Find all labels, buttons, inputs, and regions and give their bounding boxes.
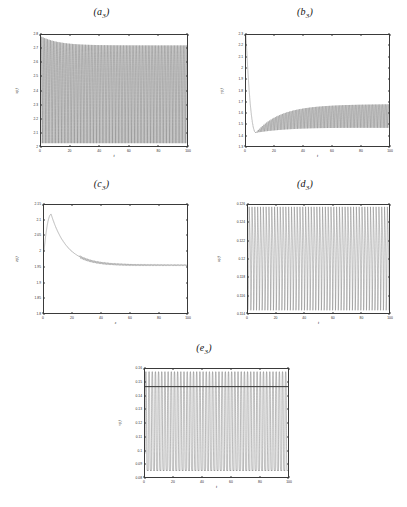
panel-c3-xtick-label: 60: [128, 316, 132, 320]
panel-b3-xtick-mark: [332, 145, 333, 147]
panel-b3-xtick-label: 60: [330, 149, 334, 153]
panel-e3-xtick-mark: [231, 476, 232, 478]
panel-d3-xtick-label: 40: [302, 316, 306, 320]
panel-b3-xtick-mark: [332, 34, 333, 36]
panel-d3-xtick-mark: [390, 312, 391, 314]
panel-c3-xtick-mark: [130, 312, 131, 314]
panel-e3-xtick-mark: [202, 476, 203, 478]
panel-d3-xtick-label: 0: [246, 316, 248, 320]
panel-a3-xtick-mark: [99, 145, 100, 147]
panel-c3-xtick-mark: [101, 204, 102, 206]
panel-b3-ytick-label: 1.8: [238, 89, 243, 93]
panel-a3-xtick-mark: [158, 34, 159, 36]
panel-c3-xtick-mark: [72, 312, 73, 314]
panel-a3-ytick-mark: [186, 76, 188, 77]
panel-e3-ytick-mark: [287, 381, 289, 382]
panel-a3-ytick-label: 2.7: [33, 46, 38, 50]
panel-e3-xtick-mark: [231, 368, 232, 370]
panel-b3-ytick-label: 1.4: [238, 134, 243, 138]
panel-a3-xtick-label: 60: [127, 149, 131, 153]
panel-a3-xtick-mark: [158, 145, 159, 147]
panel-c3-xtick-label: 100: [185, 316, 191, 320]
panel-e3-xtick-label: 60: [229, 480, 233, 484]
panel-b3-xtick-mark: [274, 34, 275, 36]
panel-b3-ytick-label: 1.5: [238, 122, 243, 126]
panel-d3-axes: [247, 204, 390, 314]
panel-a3-xtick-mark: [188, 145, 189, 147]
panel-d3: (d3) u(t) t 0.1140.1160.1180.120.1220.12…: [203, 178, 407, 340]
panel-c3-xtick-label: 40: [99, 316, 103, 320]
panel-d3-xtick-mark: [332, 312, 333, 314]
panel-b3-xtick-label: 20: [272, 149, 276, 153]
panel-e3-ytick-mark: [144, 450, 146, 451]
panel-b3-xlabel: t: [317, 153, 318, 158]
panel-a3-xtick-mark: [40, 34, 41, 36]
panel-b3-axes: [245, 34, 390, 147]
panel-b3-curve: [246, 35, 389, 146]
panel-e3-ytick-mark: [144, 464, 146, 465]
panel-a3-plot: x(t) t 22.12.22.32.42.52.62.72.802040608…: [40, 34, 188, 147]
panel-c3-ytick-label: 2: [39, 249, 41, 253]
panel-e3-xtick-mark: [289, 368, 290, 370]
panel-c3-ytick-mark: [43, 282, 45, 283]
panel-e3-xtick-mark: [144, 368, 145, 370]
panel-e3-ytick-mark: [287, 395, 289, 396]
panel-c3-plot: z(t) z 1.81.851.91.9522.052.12.150204060…: [43, 204, 188, 314]
panel-a3-axes: [40, 34, 188, 147]
panel-e3-xtick-label: 20: [171, 480, 175, 484]
panel-e3-xtick-mark: [173, 476, 174, 478]
panel-e3-ytick-mark: [144, 381, 146, 382]
panel-c3-ytick-label: 1.8: [36, 312, 41, 316]
panel-b3-ytick-label: 2: [241, 66, 243, 70]
panel-e3-xtick-label: 100: [286, 480, 292, 484]
panel-b3-ytick-mark: [245, 90, 247, 91]
panel-c3-ytick-mark: [43, 251, 45, 252]
panel-e3: (e3) v(t) t 0.080.090.10.110.120.130.140…: [102, 342, 306, 504]
panel-c3-ytick-label: 2.15: [35, 202, 41, 206]
panel-b3: (b3) y(t) t 1.31.41.51.61.71.81.922.12.2…: [203, 6, 407, 176]
panel-b3-ytick-mark: [245, 113, 247, 114]
panel-e3-ytick-mark: [144, 409, 146, 410]
panel-e3-xlabel: t: [216, 484, 217, 489]
panel-b3-ytick-mark: [245, 135, 247, 136]
panel-c3-ytick-label: 2.1: [36, 218, 41, 222]
panel-c3-curve: [44, 205, 187, 313]
panel-c3-ytick-mark: [186, 251, 188, 252]
panel-c3-ytick-mark: [186, 298, 188, 299]
panel-b3-ytick-mark: [388, 113, 390, 114]
panel-c3-xtick-mark: [159, 312, 160, 314]
panel-e3-ytick-mark: [144, 423, 146, 424]
panel-a3-ytick-mark: [186, 62, 188, 63]
panel-e3-ytick-mark: [287, 450, 289, 451]
panel-d3-ytick-label: 0.126: [237, 202, 245, 206]
panel-c3-xtick-mark: [43, 204, 44, 206]
panel-e3-ytick-label: 0.13: [136, 407, 142, 411]
panel-e3-ytick-mark: [144, 395, 146, 396]
panel-a3-xtick-mark: [188, 34, 189, 36]
panel-d3-ytick-mark: [247, 277, 249, 278]
panel-d3-ytick-mark: [388, 240, 390, 241]
panel-e3-ylabel: v(t): [117, 420, 122, 426]
panel-e3-xtick-mark: [260, 368, 261, 370]
panel-d3-ytick-mark: [247, 240, 249, 241]
panel-b3-xtick-label: 0: [244, 149, 246, 153]
panel-b3-xtick-mark: [274, 145, 275, 147]
panel-e3-ytick-mark: [287, 436, 289, 437]
panel-c3-title: (c3): [0, 178, 203, 192]
panel-b3-ytick-mark: [388, 45, 390, 46]
panel-c3-xtick-label: 0: [42, 316, 44, 320]
panel-a3-ytick-mark: [40, 62, 42, 63]
panel-d3-ytick-mark: [388, 277, 390, 278]
panel-d3-ylabel: u(t): [216, 256, 221, 262]
panel-c3-ytick-mark: [43, 266, 45, 267]
panel-b3-xtick-label: 80: [359, 149, 363, 153]
multi-panel-figure: (a3) x(t) t 22.12.22.32.42.52.62.72.8020…: [0, 0, 407, 507]
panel-c3: (c3) z(t) z 1.81.851.91.9522.052.12.1502…: [0, 178, 203, 340]
panel-b3-ytick-label: 1.7: [238, 100, 243, 104]
panel-a3-ytick-label: 2.1: [33, 131, 38, 135]
panel-d3-xtick-mark: [275, 312, 276, 314]
panel-a3-xtick-mark: [128, 34, 129, 36]
panel-c3-xtick-mark: [159, 204, 160, 206]
panel-a3-ytick-label: 2.5: [33, 74, 38, 78]
panel-c3-xlabel: z: [115, 320, 117, 325]
